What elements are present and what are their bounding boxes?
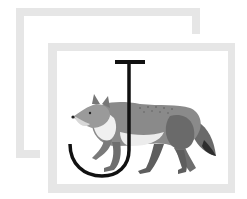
jackal-letter-illustration — [0, 0, 247, 199]
